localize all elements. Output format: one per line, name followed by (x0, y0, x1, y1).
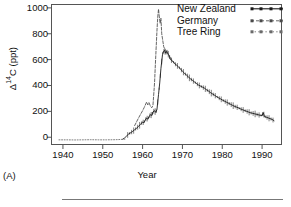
panel-label: (A) (3, 171, 16, 181)
x-tick-label: 1970 (162, 150, 202, 160)
series-line (123, 50, 274, 139)
x-tick-label: 1980 (202, 150, 242, 160)
legend-item-key (249, 26, 285, 38)
y-axis-title: Δ14C (ppt) (4, 34, 17, 104)
legend-item-key (249, 3, 285, 15)
x-tick-label: 1940 (43, 150, 83, 160)
y-tick-label: 0 (2, 132, 48, 142)
y-tick-label: 200 (2, 106, 48, 116)
y-axis-title-delta: Δ (7, 84, 18, 90)
legend-item-label: New Zealand (177, 3, 236, 14)
series-line (135, 9, 175, 125)
legend-item-label: Tree Ring (177, 26, 221, 37)
series-line (59, 139, 126, 140)
legend: New ZealandGermanyTree Ring (177, 3, 285, 38)
legend-item[interactable]: New Zealand (177, 3, 285, 15)
x-tick-label: 1990 (242, 150, 282, 160)
y-axis-title-superscript: 14 (5, 76, 12, 84)
y-axis-title-unit: C (ppt) (7, 47, 18, 76)
figure-panel-a: 02004006008001000 1940195019601970198019… (0, 0, 291, 207)
legend-item[interactable]: Tree Ring (177, 26, 285, 38)
panel-b-top-border (62, 199, 283, 200)
legend-item-key (249, 15, 285, 27)
legend-item-label: Germany (177, 15, 218, 26)
x-tick-label: 1960 (123, 150, 163, 160)
x-tick-label: 1950 (83, 150, 123, 160)
x-axis-title: Year (112, 170, 182, 180)
legend-item[interactable]: Germany (177, 15, 285, 27)
y-tick-label: 1000 (2, 3, 48, 13)
